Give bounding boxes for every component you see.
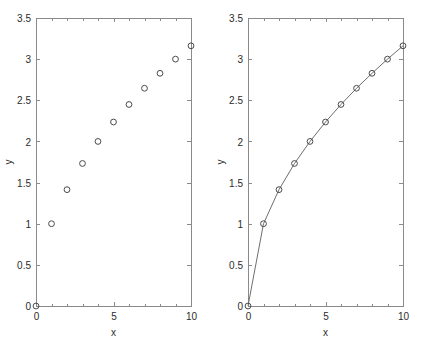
x-axis-title-right: x <box>323 327 328 338</box>
plot-box-left <box>37 19 192 307</box>
figure-canvas: 00.511.522.533.50510xy 00.511.522.533.50… <box>0 0 425 345</box>
x-axis-title-left: x <box>111 327 116 338</box>
data-point-marker <box>111 119 117 125</box>
y-tick-label-left-4: 2 <box>25 137 31 148</box>
x-tick-label-left-1: 5 <box>111 311 117 322</box>
y-tick-label-left-0: 0 <box>25 301 31 312</box>
plot-box-right <box>249 19 404 307</box>
y-tick-label-right-6: 3 <box>237 54 243 65</box>
y-tick-label-left-2: 1 <box>25 219 31 230</box>
data-point-marker <box>49 221 55 227</box>
y-axis-title-right: y <box>215 160 226 165</box>
plot-panel-left: 00.511.522.533.50510xy <box>0 0 213 345</box>
y-tick-label-left-5: 2.5 <box>17 95 31 106</box>
x-tick-label-right-0: 0 <box>246 311 252 322</box>
plot-svg-left: 00.511.522.533.50510xy <box>0 0 213 345</box>
y-tick-label-right-1: 0.5 <box>229 260 243 271</box>
plot-svg-right: 00.511.522.533.50510xy <box>212 0 425 345</box>
data-point-marker <box>64 187 70 193</box>
data-point-marker <box>80 161 86 167</box>
x-tick-label-right-1: 5 <box>323 311 329 322</box>
y-tick-label-right-7: 3.5 <box>229 13 243 24</box>
data-point-marker <box>157 70 163 76</box>
data-point-marker <box>95 139 101 145</box>
data-point-marker <box>142 85 148 91</box>
y-tick-label-right-2: 1 <box>237 219 243 230</box>
y-axis-title-left: y <box>3 160 14 165</box>
x-tick-label-left-0: 0 <box>34 311 40 322</box>
y-tick-label-left-3: 1.5 <box>17 178 31 189</box>
y-tick-label-right-3: 1.5 <box>229 178 243 189</box>
y-tick-label-left-6: 3 <box>25 54 31 65</box>
x-tick-label-right-2: 10 <box>398 311 410 322</box>
plot-panel-right: 00.511.522.533.50510xy <box>212 0 425 345</box>
y-tick-label-left-7: 3.5 <box>17 13 31 24</box>
y-tick-label-right-5: 2.5 <box>229 95 243 106</box>
data-line-right <box>248 46 403 306</box>
data-point-marker <box>126 102 132 108</box>
data-point-marker <box>173 56 179 62</box>
x-tick-label-left-2: 10 <box>186 311 198 322</box>
y-tick-label-left-1: 0.5 <box>17 260 31 271</box>
y-tick-label-right-4: 2 <box>237 137 243 148</box>
y-tick-label-right-0: 0 <box>237 301 243 312</box>
